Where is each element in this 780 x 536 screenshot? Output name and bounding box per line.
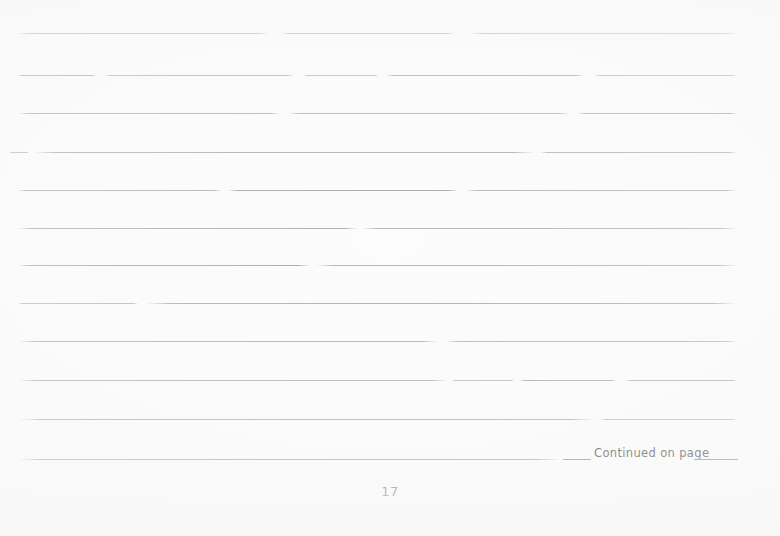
ruled-line-segment (146, 303, 737, 304)
ruled-line-segment (540, 152, 737, 153)
ruled-line (0, 227, 780, 230)
ruled-line (0, 151, 780, 154)
ruled-line (0, 379, 780, 382)
continued-blank-rule-left[interactable] (563, 459, 591, 460)
continued-on-page-label: Continued on page (594, 444, 709, 462)
ruled-line-segment (10, 152, 28, 153)
notebook-page: Continued on page 17 (0, 0, 780, 536)
ruled-line-segment (18, 113, 280, 114)
ruled-line-segment (18, 419, 594, 420)
ruled-line-segment (18, 265, 310, 266)
ruled-line-segment (34, 152, 534, 153)
ruled-line-segment (362, 228, 737, 229)
ruled-line (0, 189, 780, 192)
ruled-line-segment (578, 113, 737, 114)
ruled-line-segment (466, 190, 737, 191)
continued-on-page-block: Continued on page (560, 444, 760, 468)
ruled-line-segment (452, 380, 514, 381)
ruled-line-segment (446, 341, 737, 342)
page-number: 17 (0, 484, 780, 499)
ruled-line-segment (626, 380, 737, 381)
ruled-line-segment (18, 380, 448, 381)
ruled-line-segment (18, 75, 96, 76)
ruled-line (0, 74, 780, 77)
ruled-line (0, 418, 780, 421)
ruled-line-segment (386, 75, 584, 76)
ruled-line-segment (520, 380, 616, 381)
ruled-line-segment (18, 33, 268, 34)
ruled-line-segment (470, 33, 737, 34)
ruled-line-segment (228, 190, 458, 191)
ruled-line (0, 112, 780, 115)
ruled-line-segment (18, 190, 222, 191)
ruled-line-segment (600, 419, 737, 420)
continued-blank-rule-right[interactable] (694, 459, 738, 460)
ruled-line (0, 340, 780, 343)
ruled-line-segment (288, 113, 570, 114)
ruled-line-segment (316, 265, 737, 266)
ruled-line (0, 264, 780, 267)
ruled-line-segment (104, 75, 294, 76)
ruled-line-segment (304, 75, 378, 76)
ruled-line-segment (18, 228, 358, 229)
ruled-line-segment (18, 341, 438, 342)
ruled-line-segment (18, 303, 138, 304)
ruled-line (0, 32, 780, 35)
ruled-line-segment (594, 75, 737, 76)
ruled-line-segment (282, 33, 454, 34)
ruled-line (0, 302, 780, 305)
